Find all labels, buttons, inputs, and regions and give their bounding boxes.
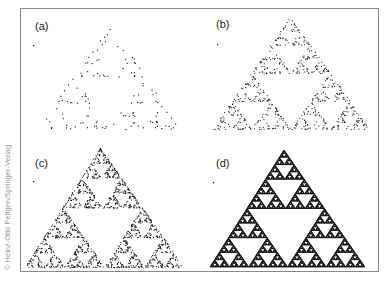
sierpinski-figure: (a) (b) (c) (d) — [0, 0, 386, 281]
panel-c: (c) — [27, 148, 181, 268]
panel-label-a: (a) — [35, 20, 48, 32]
panel-label-b: (b) — [216, 18, 229, 30]
panel-a: (a) — [33, 20, 176, 130]
panel-label-d: (d) — [216, 157, 229, 169]
chaos-game-points-c — [27, 148, 181, 268]
panel-b: (b) — [213, 18, 367, 130]
chaos-game-points-b — [213, 19, 367, 130]
panel-d: (d) — [210, 150, 365, 267]
chaos-game-points-a — [33, 29, 176, 130]
sierpinski-gasket-d — [210, 150, 365, 267]
panel-label-c: (c) — [35, 157, 48, 169]
